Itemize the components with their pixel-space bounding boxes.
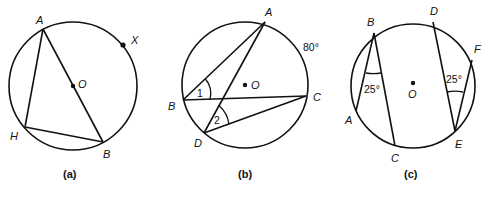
arc-measure-80: 80° [303, 41, 319, 53]
caption-c: (c) [404, 168, 418, 180]
chord-BA [356, 33, 374, 111]
label-A: A [264, 6, 272, 18]
chord-HB [25, 127, 103, 142]
label-D: D [430, 5, 438, 17]
angle-1-arc [206, 79, 211, 99]
label-O: O [251, 79, 260, 91]
point-X [120, 42, 125, 47]
label-H: H [10, 130, 18, 142]
angle-2-arc [219, 106, 229, 125]
chord-AH [25, 29, 43, 127]
label-C: C [391, 152, 399, 164]
angle-2-label: 2 [214, 114, 220, 126]
label-B: B [168, 100, 175, 112]
figure-c: 25° 25° B A C D F E O (c) [344, 5, 482, 180]
figure-b: 1 2 A 80° O B C D (b) [168, 6, 321, 180]
label-A: A [35, 14, 43, 26]
caption-a: (a) [63, 168, 77, 180]
angle-B-arc [366, 73, 381, 74]
label-X: X [130, 34, 139, 46]
angle-E-arc [447, 91, 463, 92]
center-point-O [243, 83, 247, 87]
center-point-O [71, 84, 75, 88]
angle-E-label: 25° [446, 73, 462, 85]
label-B: B [367, 16, 374, 28]
label-E: E [455, 138, 463, 150]
label-A: A [344, 114, 352, 126]
caption-b: (b) [238, 168, 252, 180]
angle-B-label: 25° [364, 83, 380, 95]
label-F: F [474, 43, 482, 55]
angle-1-label: 1 [197, 87, 203, 99]
circle-geometry-figures: A X O H B (a) 1 2 A 80° O B C D (b) [0, 0, 490, 197]
label-C: C [313, 91, 321, 103]
figure-a: A X O H B (a) [9, 14, 139, 180]
label-D: D [194, 137, 202, 149]
label-B: B [103, 148, 110, 160]
center-point-O [411, 81, 415, 85]
chord-FE [455, 60, 472, 131]
label-O: O [78, 78, 87, 90]
label-O: O [408, 88, 417, 100]
